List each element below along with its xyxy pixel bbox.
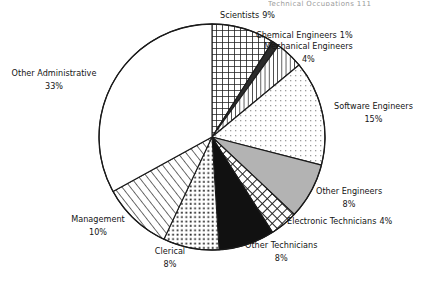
slice-label-other-technicians-name: Other Technicians — [245, 240, 317, 251]
slice-label-other-technicians: Other Technicians 8% — [245, 240, 317, 263]
slice-label-management: Management 10% — [62, 214, 134, 237]
pie-chart-figure: Scientists9% Chemical Engineers1% Mechan… — [0, 0, 426, 286]
slice-label-mechanical-engineers: Mechanical Engineers 4% — [264, 41, 353, 64]
slice-label-other-administrative-pct: 33% — [6, 81, 102, 92]
slice-label-mechanical-engineers-pct: 4% — [264, 54, 353, 65]
slice-label-other-engineers-name: Other Engineers — [316, 186, 382, 197]
slice-label-clerical-pct: 8% — [148, 259, 192, 270]
slice-label-electronic-technicians-name: Electronic Technicians — [287, 216, 376, 226]
slice-label-electronic-technicians: Electronic Technicians4% — [287, 216, 392, 227]
slice-label-scientists: Scientists9% — [220, 10, 275, 21]
slice-label-software-engineers: Software Engineers 15% — [334, 101, 413, 124]
slice-label-other-engineers: Other Engineers 8% — [316, 186, 382, 209]
slice-label-chemical-engineers-name: Chemical Engineers — [256, 30, 337, 40]
slice-label-management-pct: 10% — [62, 227, 134, 238]
pie-chart-svg — [0, 0, 426, 286]
slice-label-chemical-engineers: Chemical Engineers1% — [256, 30, 353, 41]
slice-label-other-administrative: Other Administrative 33% — [6, 68, 102, 91]
slice-label-other-engineers-pct: 8% — [316, 199, 382, 210]
slice-label-software-engineers-name: Software Engineers — [334, 101, 413, 112]
slice-label-management-name: Management — [62, 214, 134, 225]
slice-label-software-engineers-pct: 15% — [334, 114, 413, 125]
slice-label-electronic-technicians-pct: 4% — [379, 216, 392, 226]
slice-label-other-administrative-name: Other Administrative — [6, 68, 102, 79]
pie-chart-page: Technical Occupations 111 — [0, 0, 426, 286]
slice-label-chemical-engineers-pct: 1% — [340, 30, 353, 40]
slice-label-other-technicians-pct: 8% — [245, 253, 317, 264]
slice-label-clerical-name: Clerical — [148, 246, 192, 257]
slice-label-scientists-name: Scientists — [220, 10, 259, 20]
slice-label-scientists-pct: 9% — [262, 10, 275, 20]
slice-label-mechanical-engineers-name: Mechanical Engineers — [264, 41, 353, 52]
slice-label-clerical: Clerical 8% — [148, 246, 192, 269]
